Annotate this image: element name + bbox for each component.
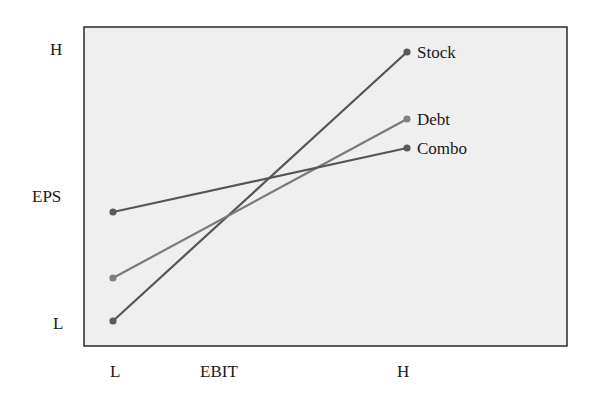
y-tick-high: H: [50, 40, 62, 59]
stock-point-low: [109, 317, 116, 324]
combo-point-low: [109, 208, 116, 215]
x-tick-low: L: [110, 362, 120, 381]
series-label-combo: Combo: [417, 139, 467, 158]
series-label-stock: Stock: [417, 43, 456, 62]
ebit-eps-chart: Stock Debt Combo H EPS L L EBIT H: [0, 0, 596, 398]
series-label-debt: Debt: [417, 110, 450, 129]
y-tick-low: L: [53, 314, 63, 333]
x-axis-title: EBIT: [200, 362, 238, 381]
combo-point-high: [403, 144, 410, 151]
y-axis-title: EPS: [32, 187, 61, 206]
debt-point-high: [403, 115, 410, 122]
debt-point-low: [109, 274, 116, 281]
stock-point-high: [403, 48, 410, 55]
plot-area: [84, 27, 567, 346]
x-tick-high: H: [397, 362, 409, 381]
